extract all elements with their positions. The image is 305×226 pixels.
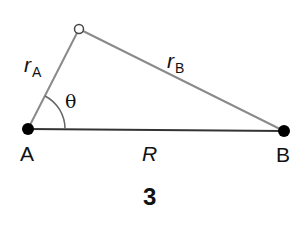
- segment-r-b: [79, 29, 284, 131]
- angle-theta-arc: [45, 96, 65, 129]
- figure-number: 3: [143, 185, 156, 209]
- triangle-diagram: rA rB θ A B R 3: [0, 0, 305, 226]
- point-p-open-circle: [75, 25, 84, 34]
- label-point-a: A: [20, 143, 34, 164]
- r-a-subscript: A: [32, 64, 41, 80]
- point-b-dot: [278, 125, 290, 137]
- point-a-dot: [22, 123, 34, 135]
- label-r-distance: R: [142, 143, 157, 164]
- r-b-subscript: B: [175, 60, 184, 76]
- label-point-b: B: [276, 144, 290, 165]
- r-b-symbol: r: [167, 49, 174, 72]
- segment-r: [28, 129, 284, 131]
- label-theta: θ: [65, 92, 76, 111]
- r-a-symbol: r: [24, 53, 31, 76]
- label-r-b: rB: [167, 50, 184, 71]
- label-r-a: rA: [24, 54, 41, 75]
